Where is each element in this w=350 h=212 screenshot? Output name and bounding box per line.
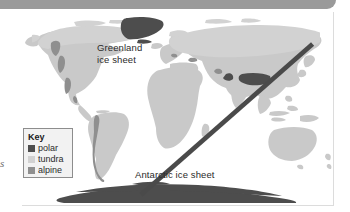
key-swatch-tundra	[28, 156, 35, 163]
key-label-polar: polar	[38, 143, 58, 154]
map-key: Key polar tundra alpine	[23, 128, 73, 178]
page-right-rule	[333, 12, 334, 206]
key-title: Key	[28, 132, 72, 143]
page-header-band-end	[336, 0, 350, 9]
key-item-polar: polar	[28, 143, 72, 154]
margin-text-fragment: s	[0, 158, 4, 169]
key-item-alpine: alpine	[28, 165, 72, 176]
page-bottom-rule	[22, 205, 334, 206]
key-label-tundra: tundra	[38, 154, 64, 165]
key-swatch-polar	[28, 145, 35, 152]
key-swatch-alpine	[28, 167, 35, 174]
key-item-tundra: tundra	[28, 154, 72, 165]
key-label-alpine: alpine	[38, 165, 62, 176]
greenland-ice-sheet-label: Greenland ice sheet	[97, 42, 142, 65]
figure-page: s	[0, 0, 350, 212]
page-header-band	[0, 0, 336, 9]
antarctic-ice-sheet-label: Antarctic ice sheet	[135, 169, 215, 181]
